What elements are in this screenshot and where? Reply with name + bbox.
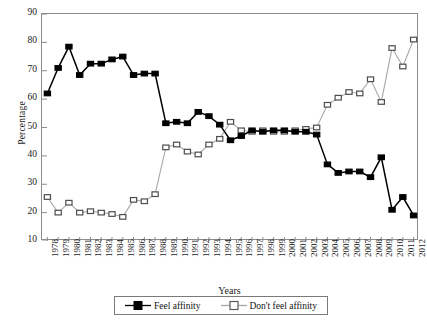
data-point[interactable]: [130, 198, 136, 203]
data-point[interactable]: [130, 73, 136, 78]
x-axis-tick-label: 1981: [83, 239, 93, 283]
data-point[interactable]: [378, 155, 384, 160]
data-point[interactable]: [141, 199, 147, 204]
data-point[interactable]: [184, 121, 190, 126]
data-point[interactable]: [367, 175, 373, 180]
series-line-feel-affinity: [47, 47, 413, 216]
data-point[interactable]: [98, 210, 104, 215]
data-point[interactable]: [411, 213, 417, 218]
data-point[interactable]: [87, 209, 93, 214]
data-point[interactable]: [227, 120, 233, 125]
data-point[interactable]: [411, 37, 417, 42]
data-point[interactable]: [152, 192, 158, 197]
y-axis-tick-label: 80: [15, 36, 37, 46]
data-point[interactable]: [389, 207, 395, 212]
data-point[interactable]: [292, 129, 298, 134]
data-point[interactable]: [120, 215, 126, 220]
data-point[interactable]: [55, 66, 61, 71]
data-point[interactable]: [174, 120, 180, 125]
data-point[interactable]: [400, 64, 406, 69]
data-point[interactable]: [109, 212, 115, 217]
data-point[interactable]: [367, 77, 373, 82]
x-axis-tick-label: 1995: [234, 239, 244, 283]
data-point[interactable]: [77, 210, 83, 215]
data-point[interactable]: [357, 169, 363, 174]
data-point[interactable]: [163, 121, 169, 126]
data-point[interactable]: [303, 129, 309, 134]
data-point[interactable]: [249, 128, 255, 133]
y-axis-tick-label: 10: [15, 235, 37, 245]
legend-item-feel-affinity[interactable]: Feel affinity: [125, 300, 201, 311]
data-point[interactable]: [174, 142, 180, 147]
data-point[interactable]: [195, 110, 201, 115]
data-point[interactable]: [77, 73, 83, 78]
x-axis-tick-label: 1985: [126, 239, 136, 283]
data-point[interactable]: [324, 162, 330, 167]
data-point[interactable]: [195, 152, 201, 157]
data-point[interactable]: [66, 200, 72, 205]
x-axis-tick-label: 2006: [352, 239, 362, 283]
data-point[interactable]: [260, 129, 266, 134]
data-point[interactable]: [141, 71, 147, 76]
y-axis-tick-label: 70: [15, 65, 37, 75]
data-point[interactable]: [314, 125, 320, 130]
x-axis-tick-label: 2009: [384, 239, 394, 283]
data-point[interactable]: [184, 149, 190, 154]
data-point[interactable]: [400, 195, 406, 200]
data-point[interactable]: [346, 90, 352, 95]
y-axis-tick-label: 90: [15, 8, 37, 18]
x-axis-tick-label: 1986: [137, 239, 147, 283]
x-axis-tick-label: 2001: [298, 239, 308, 283]
data-point[interactable]: [98, 61, 104, 66]
data-point[interactable]: [314, 132, 320, 137]
x-axis-tick-label: 1989: [169, 239, 179, 283]
data-point[interactable]: [324, 103, 330, 108]
data-point[interactable]: [238, 128, 244, 133]
x-axis-tick-label: 1998: [266, 239, 276, 283]
data-point[interactable]: [227, 138, 233, 143]
x-axis-tick-label: 1999: [277, 239, 287, 283]
x-axis-tick-label: 2005: [341, 239, 351, 283]
open-square-icon: [221, 300, 247, 311]
data-point[interactable]: [44, 91, 50, 96]
data-point[interactable]: [335, 95, 341, 100]
legend-label-feel-affinity: Feel affinity: [154, 301, 201, 311]
data-point[interactable]: [87, 61, 93, 66]
data-point[interactable]: [44, 195, 50, 200]
x-axis-tick-label: 1980: [72, 239, 82, 283]
x-axis-tick-label: 1993: [212, 239, 222, 283]
x-axis-tick-label: 1988: [158, 239, 168, 283]
data-point[interactable]: [346, 169, 352, 174]
data-point[interactable]: [217, 122, 223, 127]
x-axis-tick-label: 1996: [244, 239, 254, 283]
data-point[interactable]: [152, 71, 158, 76]
data-point[interactable]: [270, 128, 276, 133]
legend-item-dont-feel-affinity[interactable]: Don't feel affinity: [221, 300, 318, 311]
data-point[interactable]: [120, 54, 126, 59]
data-point[interactable]: [378, 100, 384, 105]
data-point[interactable]: [217, 137, 223, 142]
x-axis-tick-labels: 1978197919801981198219831984198519861987…: [41, 241, 418, 285]
x-axis-tick-label: 1978: [50, 239, 60, 283]
data-point[interactable]: [238, 134, 244, 139]
data-point[interactable]: [335, 171, 341, 176]
data-point[interactable]: [66, 44, 72, 49]
data-point[interactable]: [55, 210, 61, 215]
data-point[interactable]: [206, 114, 212, 119]
data-point[interactable]: [109, 57, 115, 62]
data-point[interactable]: [357, 91, 363, 96]
y-axis-tick-label: 20: [15, 207, 37, 217]
y-axis-tick-label: 50: [15, 122, 37, 132]
x-axis-tick-label: 2000: [287, 239, 297, 283]
x-axis-tick-label: 1987: [147, 239, 157, 283]
data-point[interactable]: [389, 46, 395, 51]
x-axis-tick-label: 2011: [406, 239, 416, 283]
data-point[interactable]: [206, 142, 212, 147]
x-axis-tick-label: 1982: [93, 239, 103, 283]
data-point[interactable]: [281, 128, 287, 133]
x-axis-tick-label: 2012: [417, 239, 427, 283]
y-axis-tick-label: 30: [15, 178, 37, 188]
chart-legend: Feel affinity Don't feel affinity: [114, 296, 328, 315]
data-point[interactable]: [163, 145, 169, 150]
legend-label-dont-feel-affinity: Don't feel affinity: [250, 301, 318, 311]
